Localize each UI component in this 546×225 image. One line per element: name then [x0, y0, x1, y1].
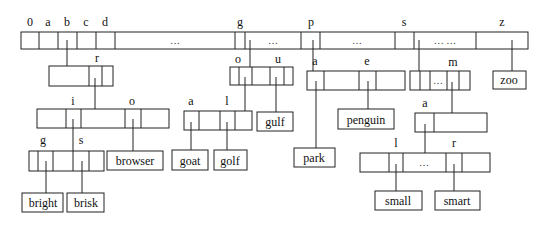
svg-text:park: park — [303, 151, 324, 165]
node-b: r — [49, 51, 113, 86]
leaf-goat: goat — [172, 150, 208, 170]
node-g-label-o: o — [235, 52, 241, 66]
node-go-label-l: l — [225, 94, 229, 108]
node-br-label-i: i — [71, 94, 75, 108]
leaf-browser: browser — [107, 151, 163, 170]
trie-diagram: 0 a b c d g p s z … … … … … r i o — [0, 0, 546, 225]
root-node: 0 a b c d g p s z … … … … … — [21, 15, 528, 49]
root-label-s: s — [402, 15, 407, 29]
leaf-small: small — [375, 191, 422, 210]
svg-text:smart: smart — [444, 194, 471, 208]
leaf-gulf: gulf — [257, 112, 293, 131]
node-sma-label-l: l — [394, 136, 398, 150]
node-br: i o — [37, 94, 169, 128]
leaf-penguin: penguin — [338, 109, 394, 129]
leaf-park: park — [294, 148, 335, 167]
root-label-c: c — [83, 15, 88, 29]
leaf-brisk: brisk — [67, 193, 104, 212]
svg-text:goat: goat — [180, 154, 201, 168]
node-s-label-m: m — [448, 55, 458, 69]
leaf-zoo: zoo — [493, 71, 526, 89]
node-g-label-u: u — [275, 52, 281, 66]
node-br-label-o: o — [129, 94, 135, 108]
svg-text:small: small — [385, 194, 412, 208]
node-bri: g s — [29, 133, 104, 171]
node-g: o u — [230, 52, 293, 85]
root-label-d: d — [102, 15, 108, 29]
root-ellipsis-1: … — [170, 35, 180, 46]
svg-text:penguin: penguin — [347, 113, 386, 127]
node-bri-label-g: g — [40, 133, 46, 147]
svg-text:zoo: zoo — [500, 73, 517, 87]
root-ellipsis-2: … — [268, 35, 278, 46]
root-label-p: p — [308, 15, 314, 29]
root-ellipsis-3: … — [352, 35, 362, 46]
node-go-label-a: a — [188, 94, 194, 108]
svg-text:brisk: brisk — [74, 196, 98, 210]
leaf-smart: smart — [435, 191, 480, 210]
root-label-b: b — [64, 15, 70, 29]
root-label-a: a — [45, 15, 51, 29]
node-sma-label-r: r — [452, 136, 456, 150]
node-go: a l — [184, 94, 252, 130]
root-ellipsis-4: … … — [434, 35, 457, 46]
node-sm: a — [415, 96, 487, 132]
root-label-0: 0 — [27, 15, 33, 29]
root-label-g: g — [237, 15, 243, 29]
svg-text:gulf: gulf — [265, 115, 284, 129]
node-p-label-e: e — [364, 54, 369, 68]
node-sm-label-a: a — [422, 96, 428, 110]
node-b-label-r: r — [95, 51, 99, 65]
node-sma-ellipsis: … — [419, 157, 429, 168]
node-s-ellipsis: … — [433, 75, 443, 86]
node-p-label-a: a — [312, 54, 318, 68]
node-p: a e — [307, 54, 405, 90]
svg-text:golf: golf — [220, 154, 239, 168]
root-label-z: z — [499, 15, 504, 29]
svg-text:browser: browser — [116, 154, 155, 168]
svg-text:bright: bright — [29, 196, 58, 210]
leaf-bright: bright — [22, 193, 63, 212]
node-bri-label-s: s — [79, 133, 84, 147]
leaf-golf: golf — [214, 150, 247, 170]
